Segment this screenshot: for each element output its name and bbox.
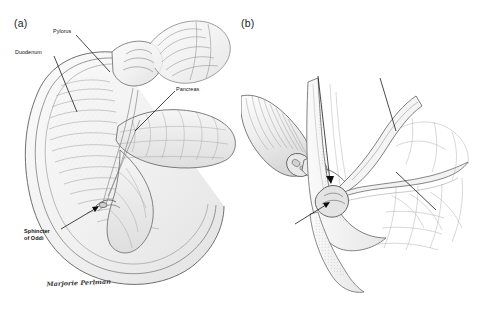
panel-b-illustration [241, 0, 483, 313]
label-duodenum: Duodenum [15, 49, 42, 56]
panel-b: (b) [241, 0, 483, 313]
label-pancreas: Pancreas [176, 86, 199, 93]
panel-a-illustration [0, 0, 242, 313]
leader-common-bile-duct [380, 78, 396, 131]
figure-container: (a) [0, 0, 483, 313]
label-pylorus: Pylorus [53, 28, 71, 35]
panel-a: (a) [0, 0, 242, 313]
stomach-body [150, 21, 230, 83]
label-sphincter-of-oddi-a: Sphincter of Oddi [24, 228, 50, 243]
